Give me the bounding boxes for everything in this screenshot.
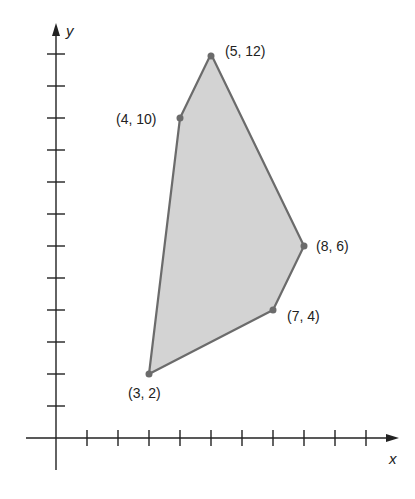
- y-axis-arrow-icon: [52, 23, 60, 36]
- vertex-label: (3, 2): [128, 385, 161, 401]
- x-axis-arrow-icon: [386, 434, 399, 442]
- vertex-label: (4, 10): [116, 111, 156, 127]
- x-axis-label: x: [388, 450, 397, 467]
- vertex-label: (5, 12): [225, 43, 265, 59]
- feasible-region: [149, 54, 304, 374]
- y-axis: [47, 23, 65, 470]
- vertex-point: [208, 53, 215, 60]
- vertex-point: [270, 307, 277, 314]
- vertex-point: [177, 115, 184, 122]
- vertex-label: (8, 6): [316, 238, 349, 254]
- vertex-label: (7, 4): [287, 308, 320, 324]
- vertex-point: [301, 243, 308, 250]
- vertex-point: [146, 371, 153, 378]
- x-axis: [26, 430, 399, 446]
- y-axis-label: y: [65, 22, 75, 39]
- coordinate-plane: y x (3, 2) (4, 10) (5, 12) (8, 6) (7, 4): [0, 0, 415, 499]
